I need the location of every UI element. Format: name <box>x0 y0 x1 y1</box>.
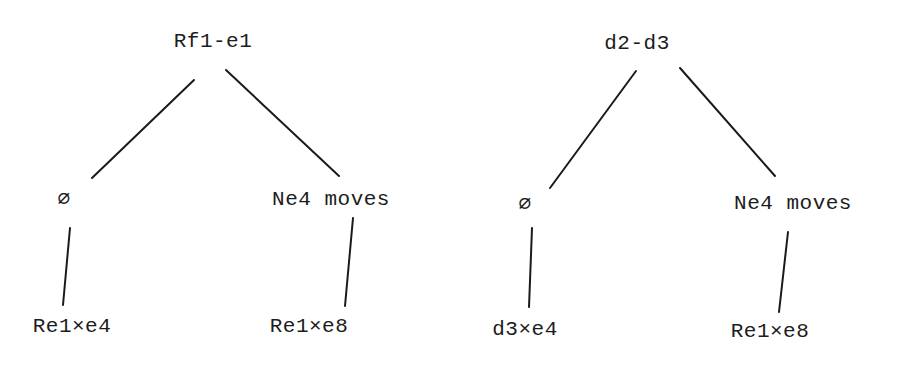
edge-rf1e1-to-null <box>92 80 194 178</box>
tree1-right-child-node: Ne4 moves <box>272 188 390 212</box>
edge-null-to-d3xe4 <box>529 228 532 307</box>
edge-ne4moves-to-re1xe8 <box>345 218 353 306</box>
edge-ne4moves-to-re1xe8-right <box>779 232 788 312</box>
tree2-root-node: d2-d3 <box>604 32 670 56</box>
edge-d2d3-to-ne4moves <box>680 68 775 176</box>
tree1-left-child-node: ∅ <box>57 188 70 212</box>
tree1-right-leaf-node: Re1×e8 <box>270 315 349 339</box>
tree2-left-child-node: ∅ <box>518 193 531 217</box>
tree1-root-node: Rf1-e1 <box>174 30 253 54</box>
edge-rf1e1-to-ne4moves <box>226 70 339 176</box>
tree1-left-leaf-node: Re1×e4 <box>33 315 112 339</box>
edge-null-to-re1xe4 <box>63 228 70 305</box>
tree2-right-leaf-node: Re1×e8 <box>731 320 810 344</box>
edge-d2d3-to-null <box>550 71 636 188</box>
tree2-left-leaf-node: d3×e4 <box>492 318 558 342</box>
tree2-right-child-node: Ne4 moves <box>734 192 852 216</box>
